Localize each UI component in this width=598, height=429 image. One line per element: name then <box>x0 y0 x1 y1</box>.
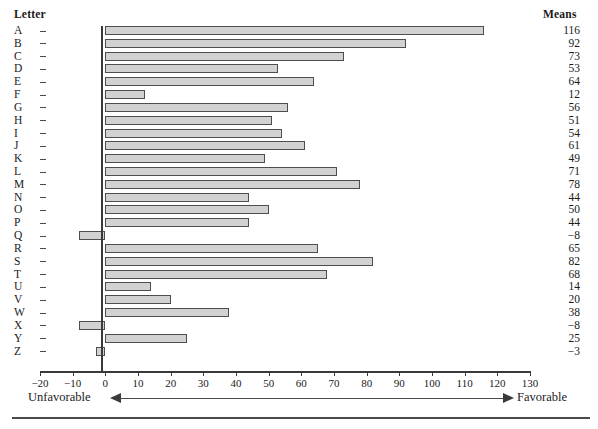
row-label-w: W <box>14 307 25 318</box>
row-tick <box>40 287 46 288</box>
row-tick <box>40 159 46 160</box>
bar-g <box>105 103 288 112</box>
x-tick <box>367 371 368 376</box>
bar-m <box>105 180 360 189</box>
mean-value-b: 92 <box>569 38 581 49</box>
x-tick-label: 0 <box>103 377 109 389</box>
bottom-divider <box>12 417 590 419</box>
row-label-g: G <box>14 102 22 113</box>
mean-value-k: 49 <box>569 153 581 164</box>
row-label-x: X <box>14 320 22 331</box>
x-tick-label: 20 <box>165 377 176 389</box>
bar-p <box>105 218 249 227</box>
row-tick <box>40 133 46 134</box>
row-tick <box>40 82 46 83</box>
row-label-y: Y <box>14 333 22 344</box>
mean-value-i: 54 <box>569 128 581 139</box>
x-tick <box>236 371 237 376</box>
row-tick <box>40 120 46 121</box>
row-tick <box>40 210 46 211</box>
bar-d <box>105 64 278 73</box>
row-label-b: B <box>14 38 22 49</box>
row-label-v: V <box>14 294 22 305</box>
mean-value-c: 73 <box>569 51 581 62</box>
mean-value-l: 71 <box>569 166 581 177</box>
x-tick <box>73 371 74 376</box>
row-label-m: M <box>14 179 24 190</box>
annotation-axis-line <box>120 398 505 399</box>
plot-area: A116B92C73D53E64F12G56H51I54J61K49L71M78… <box>0 0 598 429</box>
mean-value-h: 51 <box>569 115 581 126</box>
favorable-label: Favorable <box>517 390 567 405</box>
x-tick <box>203 371 204 376</box>
x-tick-label: 130 <box>522 377 539 389</box>
row-tick <box>40 261 46 262</box>
mean-value-r: 65 <box>569 243 581 254</box>
mean-value-x: −8 <box>568 320 580 331</box>
row-tick <box>40 56 46 57</box>
row-tick <box>40 223 46 224</box>
bar-a <box>105 26 484 35</box>
row-tick <box>40 184 46 185</box>
row-label-d: D <box>14 63 22 74</box>
row-tick <box>40 69 46 70</box>
x-tick-label: 10 <box>133 377 144 389</box>
row-label-a: A <box>14 25 22 36</box>
mean-value-z: −3 <box>568 346 580 357</box>
row-label-k: K <box>14 153 22 164</box>
bar-e <box>105 77 314 86</box>
bar-j <box>105 141 304 150</box>
row-label-c: C <box>14 51 22 62</box>
mean-value-d: 53 <box>569 63 581 74</box>
x-tick <box>138 371 139 376</box>
row-label-f: F <box>14 89 20 100</box>
x-tick <box>399 371 400 376</box>
mean-value-m: 78 <box>569 179 581 190</box>
x-tick-label: −10 <box>64 377 81 389</box>
row-tick <box>40 31 46 32</box>
mean-value-g: 56 <box>569 102 581 113</box>
x-tick-label: 110 <box>457 377 473 389</box>
x-axis-line <box>40 371 531 373</box>
row-label-p: P <box>14 217 20 228</box>
x-tick-label: 70 <box>329 377 340 389</box>
row-label-u: U <box>14 281 22 292</box>
x-tick-label: 80 <box>361 377 372 389</box>
mean-value-o: 50 <box>569 204 581 215</box>
x-tick <box>269 371 270 376</box>
row-label-q: Q <box>14 230 22 241</box>
bar-f <box>105 90 144 99</box>
mean-value-p: 44 <box>569 217 581 228</box>
means-bar-chart: Letter Means A116B92C73D53E64F12G56H51I5… <box>0 0 598 429</box>
zero-reference-axis <box>101 26 103 371</box>
x-tick <box>105 371 106 376</box>
row-label-r: R <box>14 243 22 254</box>
row-tick <box>40 274 46 275</box>
mean-value-j: 61 <box>569 140 581 151</box>
row-label-o: O <box>14 204 22 215</box>
bar-y <box>105 334 187 343</box>
row-tick <box>40 172 46 173</box>
bar-k <box>105 154 265 163</box>
row-label-i: I <box>14 128 18 139</box>
bar-l <box>105 167 337 176</box>
bar-r <box>105 244 317 253</box>
x-tick <box>432 371 433 376</box>
mean-value-n: 44 <box>569 192 581 203</box>
bar-t <box>105 270 327 279</box>
mean-value-a: 116 <box>563 25 580 36</box>
bar-c <box>105 52 343 61</box>
x-tick <box>530 371 531 376</box>
row-tick <box>40 338 46 339</box>
bar-u <box>105 282 151 291</box>
row-tick <box>40 95 46 96</box>
row-label-n: N <box>14 192 22 203</box>
row-tick <box>40 107 46 108</box>
row-label-h: H <box>14 115 22 126</box>
arrow-right-icon <box>503 393 514 403</box>
unfavorable-label: Unfavorable <box>28 390 90 405</box>
mean-value-f: 12 <box>569 89 581 100</box>
row-tick <box>40 43 46 44</box>
mean-value-u: 14 <box>569 281 581 292</box>
row-label-z: Z <box>14 346 21 357</box>
